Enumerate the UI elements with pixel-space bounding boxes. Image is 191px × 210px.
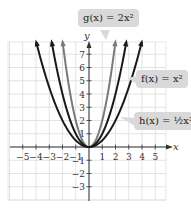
svg-text:3: 3 <box>126 152 132 162</box>
svg-text:2: 2 <box>79 116 85 126</box>
svg-text:4: 4 <box>139 152 145 162</box>
parabola-chart: −5−4−3−2−112345−3−2−11234567 x y <box>0 0 191 210</box>
g-label: g(x) = 2x² <box>78 9 139 27</box>
svg-text:5: 5 <box>79 76 85 86</box>
svg-text:1: 1 <box>99 152 105 162</box>
svg-text:−5: −5 <box>16 152 30 162</box>
svg-text:3: 3 <box>79 103 85 113</box>
h-label: h(x) = ½x² <box>134 112 191 130</box>
svg-text:4: 4 <box>79 90 85 100</box>
svg-text:−2: −2 <box>56 152 69 162</box>
svg-text:6: 6 <box>79 63 85 73</box>
svg-text:7: 7 <box>79 50 85 60</box>
svg-text:−3: −3 <box>43 152 57 162</box>
svg-text:−4: −4 <box>29 152 43 162</box>
y-axis-label: y <box>83 30 90 41</box>
svg-text:5: 5 <box>152 152 158 162</box>
svg-text:2: 2 <box>113 152 119 162</box>
svg-text:−3: −3 <box>72 182 86 192</box>
svg-text:−1: −1 <box>72 156 85 166</box>
f-label: f(x) = x² <box>136 70 188 88</box>
x-axis-label: x <box>173 141 179 152</box>
svg-text:−2: −2 <box>72 169 85 179</box>
